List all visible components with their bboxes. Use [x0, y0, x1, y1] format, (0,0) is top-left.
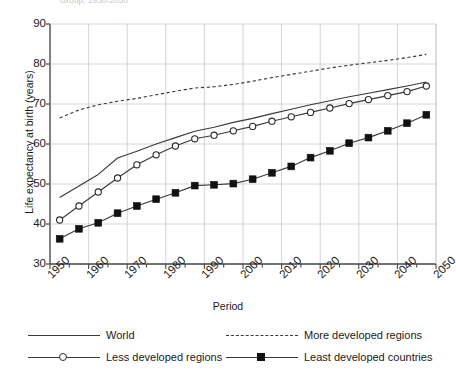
legend-label: More developed regions — [304, 329, 422, 341]
data-point-circle — [327, 105, 333, 111]
data-point-circle — [153, 152, 159, 158]
data-point-circle — [211, 132, 217, 138]
legend-label: Less developed regions — [106, 351, 222, 363]
data-point-circle — [95, 189, 101, 195]
data-point-square — [288, 163, 295, 170]
data-point-circle — [57, 217, 63, 223]
data-point-square — [269, 169, 276, 176]
legend-swatch-line-icon — [226, 329, 298, 341]
legend-square-marker-icon — [257, 353, 265, 361]
data-point-circle — [76, 203, 82, 209]
legend-item[interactable]: Least developed countries — [226, 348, 432, 366]
data-point-circle — [385, 93, 391, 99]
data-point-square — [172, 189, 179, 196]
data-point-square — [423, 111, 430, 118]
legend-line — [28, 335, 100, 336]
data-point-square — [230, 180, 237, 187]
legend-label: Least developed countries — [304, 351, 432, 363]
legend-item[interactable]: More developed regions — [226, 326, 422, 344]
data-point-circle — [307, 109, 313, 115]
data-point-square — [56, 235, 63, 242]
data-point-circle — [346, 101, 352, 107]
data-point-circle — [172, 143, 178, 149]
chart-legend: WorldMore developed regionsLess develope… — [0, 324, 456, 372]
data-point-square — [95, 219, 102, 226]
data-point-square — [307, 154, 314, 161]
data-point-square — [114, 210, 121, 217]
data-point-square — [404, 120, 411, 127]
legend-swatch-line-icon — [28, 329, 100, 341]
data-point-square — [191, 182, 198, 189]
data-point-square — [153, 196, 160, 203]
data-point-circle — [192, 136, 198, 142]
data-point-circle — [423, 83, 429, 89]
data-point-square — [384, 127, 391, 134]
legend-swatch-square-icon — [226, 351, 298, 363]
legend-item[interactable]: Less developed regions — [28, 348, 222, 366]
data-point-circle — [114, 175, 120, 181]
data-point-circle — [288, 114, 294, 120]
legend-label: World — [106, 329, 135, 341]
data-point-circle — [134, 162, 140, 168]
data-point-square — [133, 203, 140, 210]
x-axis-label: Period — [0, 300, 456, 312]
legend-swatch-circle-icon — [28, 351, 100, 363]
data-point-square — [211, 181, 218, 188]
data-point-circle — [269, 118, 275, 124]
legend-item[interactable]: World — [28, 326, 135, 344]
data-point-square — [365, 134, 372, 141]
data-point-circle — [404, 89, 410, 95]
data-point-circle — [250, 123, 256, 129]
data-point-square — [249, 176, 256, 183]
data-point-square — [326, 147, 333, 154]
plot-area — [0, 0, 456, 372]
legend-circle-marker-icon — [59, 353, 67, 361]
data-point-square — [76, 225, 83, 232]
data-point-circle — [365, 97, 371, 103]
data-point-circle — [230, 128, 236, 134]
legend-line — [226, 335, 298, 336]
data-point-square — [346, 140, 353, 147]
chart-figure: Group, 1950-2050 Life expectancy at birt… — [0, 0, 456, 372]
